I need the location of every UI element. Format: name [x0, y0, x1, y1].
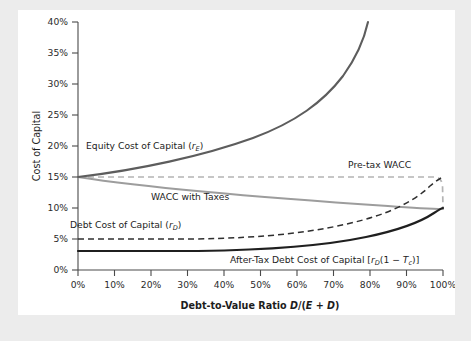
annotation-debt-suffix: ) — [178, 219, 182, 230]
annotation-after-tax-debt-cost-of-capital: After-Tax Debt Cost of Capital [rD(1 − T… — [230, 254, 419, 267]
y-tick-label-30: 30% — [48, 78, 69, 89]
x-axis-title-main: Debt-to-Value Ratio — [181, 300, 290, 311]
x-tick-label-10: 10% — [104, 279, 125, 290]
annotation-equity-cost-of-capital: Equity Cost of Capital (rE) — [86, 140, 203, 153]
y-axis-ticks — [72, 22, 78, 270]
x-axis-title-plus: + — [312, 300, 327, 311]
y-tick-label-25: 25% — [48, 109, 69, 120]
x-axis-title-close: ) — [335, 300, 339, 311]
x-axis-tick-labels: 0% 10% 20% 30% 40% 50% 60% 70% 80% 90% 1… — [71, 279, 455, 290]
annotation-aftertax-prefix: After-Tax Debt Cost of Capital [ — [230, 254, 371, 265]
annotation-debt-prefix: Debt Cost of Capital ( — [70, 219, 169, 230]
series-wacc-with-taxes — [78, 177, 443, 209]
annotation-aftertax-mid: (1 — [380, 254, 392, 265]
y-axis-tick-labels: 40% 35% 30% 25% 20% 15% 10% 5% 0% — [48, 16, 69, 275]
x-tick-label-40: 40% — [214, 279, 235, 290]
x-tick-label-30: 30% — [177, 279, 198, 290]
x-axis-title-d: D — [290, 300, 298, 311]
y-tick-label-35: 35% — [48, 47, 69, 58]
y-tick-label-0: 0% — [53, 264, 68, 275]
x-tick-label-100: 100% — [430, 279, 455, 290]
y-tick-label-20: 20% — [48, 140, 69, 151]
x-tick-label-50: 50% — [250, 279, 271, 290]
annotation-debt-cost-of-capital: Debt Cost of Capital (rD) — [70, 219, 181, 232]
x-tick-label-70: 70% — [323, 279, 344, 290]
annotation-pre-tax-wacc: Pre-tax WACC — [348, 159, 411, 170]
annotation-equity-suffix: ) — [200, 140, 204, 151]
x-tick-label-90: 90% — [396, 279, 417, 290]
x-axis-title-d2: D — [327, 300, 335, 311]
series-pre-tax-wacc — [78, 177, 443, 208]
x-tick-label-60: 60% — [287, 279, 308, 290]
annotation-aftertax-suffix: )] — [412, 254, 419, 265]
y-tick-label-5: 5% — [53, 233, 68, 244]
cost-of-capital-chart: 40% 35% 30% 25% 20% 15% 10% 5% 0% 0% — [18, 10, 455, 315]
x-tick-label-80: 80% — [360, 279, 381, 290]
series-equity-cost-of-capital — [78, 22, 368, 177]
y-axis-title: Cost of Capital — [31, 111, 42, 181]
x-axis-title-slash: /( — [298, 300, 306, 311]
annotation-wacc-with-taxes: WACC with Taxes — [151, 191, 229, 202]
chart-figure-panel: 40% 35% 30% 25% 20% 15% 10% 5% 0% 0% — [18, 10, 455, 315]
y-tick-label-10: 10% — [48, 202, 69, 213]
x-axis-ticks — [78, 270, 443, 276]
x-tick-label-20: 20% — [141, 279, 162, 290]
x-tick-label-0: 0% — [71, 279, 86, 290]
x-axis-title: Debt-to-Value Ratio D/(E + D) — [181, 300, 340, 311]
annotation-aftertax-minus: − — [392, 254, 400, 265]
y-tick-label-40: 40% — [48, 16, 69, 27]
y-tick-label-15: 15% — [48, 171, 69, 182]
annotation-equity-prefix: Equity Cost of Capital ( — [86, 140, 192, 151]
